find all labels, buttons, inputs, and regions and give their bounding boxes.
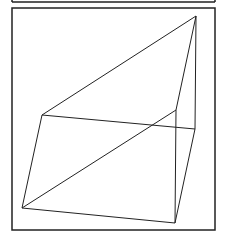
edge-front_right-bottom_right (175, 129, 195, 223)
edge-back_left-bottom_left (22, 115, 42, 208)
prism-diagram (0, 0, 229, 238)
edge-bottom_left-bottom_right (22, 208, 175, 223)
edge-bottom_left-back_right (22, 110, 176, 208)
edge-back_left-front_right (42, 115, 195, 129)
edge-apex-front_right (195, 16, 196, 129)
diagram-frame (12, 8, 215, 230)
edge-apex-back_right (176, 16, 196, 110)
prism-edges (22, 16, 196, 223)
edge-apex-back_left (42, 16, 196, 115)
